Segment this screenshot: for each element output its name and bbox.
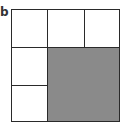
grid-cell-r1c1 [11,9,48,48]
grid-cell-r2c1 [11,47,48,86]
grid-cell-r1c2 [47,9,85,48]
shaded-block [47,47,120,122]
grid-cell-r3c1 [11,85,48,122]
square-grid [11,9,120,122]
grid-cell-r1c3 [84,9,120,48]
figure-label: b [0,6,9,18]
